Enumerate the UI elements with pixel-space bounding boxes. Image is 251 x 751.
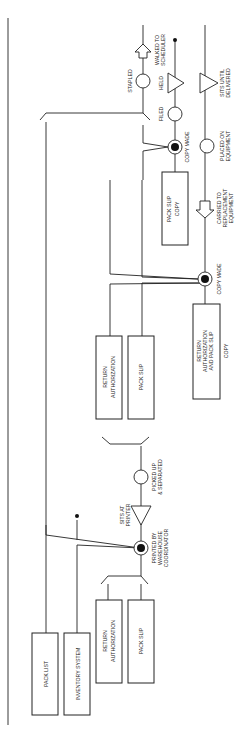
copy-made-1-label: COPY MADE [216,263,222,295]
return-authorization-box-1 [96,600,122,683]
copy-merge-a [143,125,168,147]
transport-carried-arrow [196,201,214,218]
pack-slip-copy-line1: PACK SLIP [166,195,172,222]
return-auth-1-line1: RETURN [102,630,108,652]
pack-slip-copy-line2: COPY [174,201,180,216]
held-label: HELD [158,76,164,90]
pack-slip-2-label: PACK SLIP [138,363,144,390]
inventory-system-label: INVENTORY SYSTEM [75,648,81,701]
process-diagram: PACK LIST INVENTORY SYSTEM RETURN AUTHOR… [0,0,251,751]
operation-picked-up [134,470,148,484]
ra-ps-copy-line3: AND PACK SLIP [208,331,214,370]
carried-label-3: EQUIPMENT [228,192,234,224]
staple-bracket [40,113,150,120]
placed-label-2: EQUIPMENT [225,130,231,162]
sits-at-printer-label-2: PRINTER [125,503,131,526]
filed-label: FILED [158,106,164,121]
printed-label-3: COORDINATOR [163,529,169,568]
pack-list-label: PACK LIST [43,660,49,687]
link-line [46,525,140,548]
sits-until-label-2: DELIVERED [225,68,231,98]
ra-ps-copy-line4: COPY [223,343,229,358]
transport-walked-arrow [135,44,151,58]
separate-bracket-1 [101,576,148,584]
separate-bracket-2 [102,437,149,444]
operation-printed-fill [137,544,145,552]
storage-sits-until [200,73,218,93]
operation-copy-made-1-fill [201,275,209,283]
storage-held [168,73,184,93]
end-dot [75,514,79,518]
walked-label-2: SCHEDULER [160,34,166,66]
return-authorization-box-2 [96,336,122,419]
operation-placed [200,139,214,153]
copy-made-2-label: COPY MADE [184,131,190,163]
pack-slip-1-label: PACK SLIP [138,627,144,654]
return-auth-2-line1: RETURN [102,366,108,388]
picked-up-label-2: & SEPARATED [157,459,163,495]
operation-copy-made-2-fill [171,143,179,151]
ra2-line [110,283,205,336]
operation-filed [168,107,182,121]
return-auth-2-line2: AUTHORIZATION [110,356,116,398]
operation-stapled [136,74,150,88]
stapled-label: STAPLED [127,69,133,93]
return-auth-1-line2: AUTHORIZATION [110,620,116,662]
storage-sits-at-printer [131,506,151,525]
end-dot-2 [173,38,177,42]
